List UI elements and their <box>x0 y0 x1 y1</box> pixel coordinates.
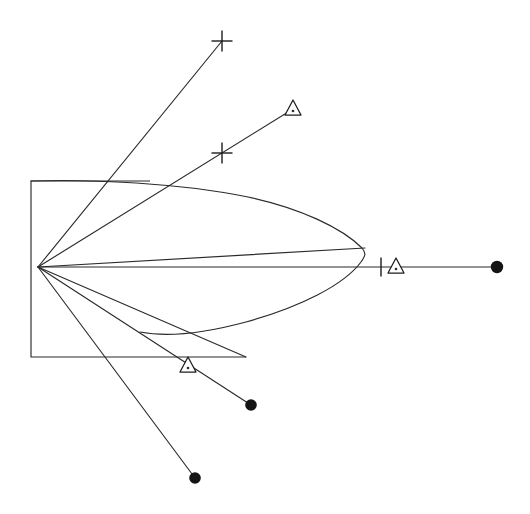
figure-background <box>0 0 530 514</box>
polar-ray-diagram <box>0 0 530 514</box>
dot-marker-icon-3 <box>189 472 201 484</box>
figure-canvas <box>0 0 530 514</box>
dot-marker-icon-1 <box>491 261 503 273</box>
dot-marker-icon-2 <box>245 399 257 411</box>
